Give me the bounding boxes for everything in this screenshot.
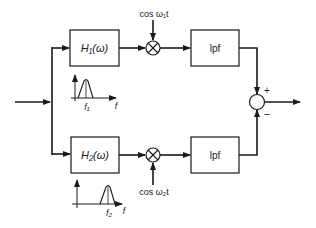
spectrum2-center-label: f₂	[106, 208, 113, 218]
spectrum2-axis-label: f	[123, 206, 127, 216]
spectrum2-plot	[72, 180, 122, 208]
filter-h1-label: H₁(ω)	[81, 42, 109, 54]
mixer2-icon	[146, 148, 160, 162]
carrier2-label: cos ω₂t	[139, 187, 169, 197]
mixer1-icon	[146, 41, 160, 55]
arrow-lpf2-to-summer	[239, 110, 257, 155]
spectrum1-center-label: f₁	[84, 102, 90, 112]
block-diagram: H₁(ω) H₂(ω) cos ω₁t cos ω₂t lpf lpf + − …	[0, 0, 316, 228]
spectrum1-axis-label: f	[115, 101, 119, 111]
arrow-lpf1-to-summer	[239, 48, 257, 94]
lpf2-label: lpf	[210, 150, 221, 161]
summer-icon	[250, 95, 265, 110]
spectrum1-plot	[71, 75, 116, 101]
summer-plus-sign: +	[264, 85, 270, 96]
carrier1-label: cos ω₁t	[139, 9, 169, 19]
filter-h2-label: H₂(ω)	[81, 149, 109, 161]
lpf1-label: lpf	[210, 43, 221, 54]
summer-minus-sign: −	[264, 108, 270, 120]
